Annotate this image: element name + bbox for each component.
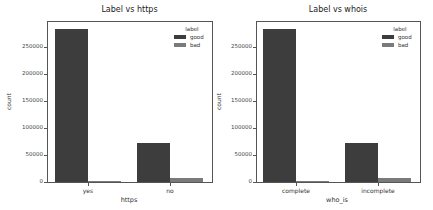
legend-item-bad: bad — [382, 42, 418, 48]
legend-item-good: good — [382, 34, 418, 40]
y-tick-100000: 100000 — [216, 124, 252, 130]
chart-label-vs-whois: Label vs whois count 0 50000 100000 1500… — [0, 0, 433, 210]
bar-complete-good — [263, 29, 296, 182]
x-axis-label: who_is — [307, 196, 367, 204]
x-tick-mark — [378, 183, 379, 186]
bar-incomplete-bad — [378, 178, 411, 182]
legend-swatch-good — [382, 35, 394, 39]
y-tick-250000: 250000 — [216, 43, 252, 49]
y-tick-150000: 150000 — [216, 97, 252, 103]
bar-incomplete-good — [345, 143, 378, 182]
y-tick-200000: 200000 — [216, 70, 252, 76]
x-tick-complete: complete — [266, 187, 326, 194]
legend-label-good: good — [398, 34, 412, 40]
legend-title: label — [382, 26, 418, 32]
x-tick-mark — [296, 183, 297, 186]
x-tick-incomplete: incomplete — [348, 187, 408, 194]
legend: label good bad — [382, 26, 418, 50]
bar-complete-bad — [296, 181, 329, 182]
y-tick-50000: 50000 — [216, 151, 252, 157]
legend-swatch-bad — [382, 43, 394, 47]
chart-title: Label vs whois — [256, 5, 420, 14]
y-tick-0: 0 — [216, 178, 252, 184]
legend-label-bad: bad — [398, 42, 408, 48]
